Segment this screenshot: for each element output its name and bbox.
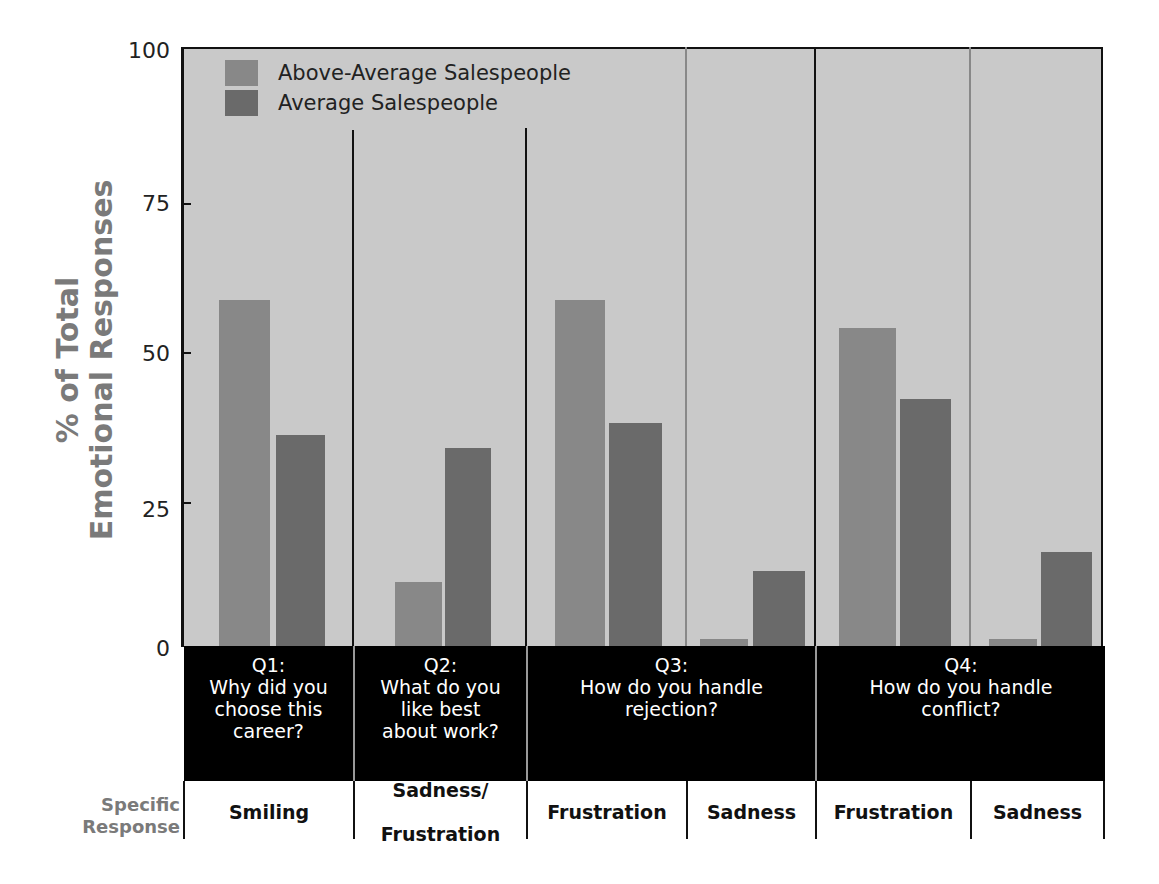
- response-separator: [1103, 781, 1105, 839]
- response-q4-frustration: Frustration: [817, 781, 970, 843]
- bar-q3-frustration-average: [609, 423, 662, 647]
- bar-q3-sadness-average: [753, 571, 805, 647]
- bar-q4-frustration-above-average: [839, 328, 896, 647]
- question-text-line: What do you: [355, 676, 526, 698]
- legend: Above-Average Salespeople Average Salesp…: [225, 58, 571, 118]
- y-tick-100: 100: [120, 38, 170, 63]
- divider-q4-responses: [969, 47, 971, 646]
- response-q1-smiling: Smiling: [185, 781, 353, 843]
- question-text-line: conflict?: [817, 698, 1105, 720]
- y-axis-title-line-2: Emotional Responses: [85, 180, 119, 541]
- bar-chart: % of Total Emotional Responses 100 75 50…: [0, 0, 1159, 884]
- y-tick-mark-25: [181, 502, 191, 504]
- x-axis-title-line-2: Response: [60, 816, 180, 838]
- question-text-line: like best: [355, 698, 526, 720]
- y-tick-50: 50: [120, 341, 170, 366]
- bar-q4-sadness-average: [1041, 552, 1092, 647]
- question-text-line: Why did you: [184, 676, 353, 698]
- question-label: Q2:: [355, 654, 526, 676]
- x-axis-title-line-1: Specific: [60, 794, 180, 816]
- legend-swatch-above-average: [225, 60, 258, 86]
- bar-q2-sadness-frustration-above-average: [395, 582, 442, 647]
- legend-item-above-average: Above-Average Salespeople: [225, 58, 571, 88]
- bar-q2-sadness-frustration-average: [445, 448, 491, 647]
- y-tick-25: 25: [120, 497, 170, 522]
- legend-label: Above-Average Salespeople: [278, 61, 571, 85]
- question-text-line: How do you handle: [528, 676, 815, 698]
- question-text-line: choose this: [184, 698, 353, 720]
- question-text-line: How do you handle: [817, 676, 1105, 698]
- divider-q3-q4: [814, 47, 816, 646]
- divider-q2-q3: [525, 128, 527, 646]
- question-text-line: about work?: [355, 720, 526, 742]
- y-axis-title-line-1: % of Total: [51, 180, 85, 541]
- response-q3-sadness: Sadness: [688, 781, 815, 843]
- question-label: Q3:: [528, 654, 815, 676]
- bar-q1-smiling-average: [276, 435, 325, 647]
- question-text-line: career?: [184, 720, 353, 742]
- response-q4-sadness: Sadness: [972, 781, 1103, 843]
- response-line: Frustration: [381, 823, 500, 845]
- y-tick-mark-50: [181, 352, 191, 354]
- response-q3-frustration: Frustration: [528, 781, 686, 843]
- divider-q3-responses: [685, 47, 687, 646]
- y-tick-0: 0: [120, 636, 170, 661]
- question-q1: Q1: Why did you choose this career?: [184, 646, 353, 781]
- bar-q3-frustration-above-average: [555, 300, 605, 647]
- question-q4: Q4: How do you handle conflict?: [817, 646, 1105, 781]
- question-q3: Q3: How do you handle rejection?: [528, 646, 815, 781]
- y-tick-75: 75: [120, 191, 170, 216]
- legend-swatch-average: [225, 90, 258, 116]
- bar-q4-frustration-average: [900, 399, 951, 647]
- response-line: Sadness/: [381, 779, 500, 801]
- response-q2-sadness-frustration: Sadness/ Frustration: [355, 781, 526, 843]
- legend-label: Average Salespeople: [278, 91, 498, 115]
- question-label: Q1:: [184, 654, 353, 676]
- x-axis-title: Specific Response: [60, 794, 180, 838]
- y-tick-mark-75: [181, 203, 191, 205]
- question-text-line: rejection?: [528, 698, 815, 720]
- legend-item-average: Average Salespeople: [225, 88, 571, 118]
- divider-q1-q2: [352, 130, 354, 646]
- bar-q1-smiling-above-average: [219, 300, 270, 647]
- question-label: Q4:: [817, 654, 1105, 676]
